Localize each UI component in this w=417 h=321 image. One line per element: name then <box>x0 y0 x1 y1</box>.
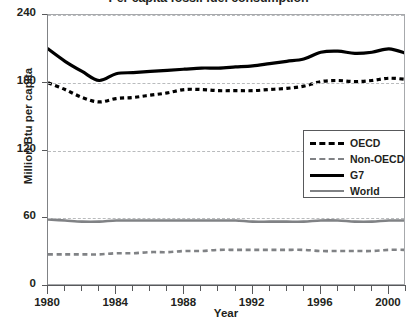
x-tick-1993 <box>269 285 270 291</box>
y-tick-mark-120 <box>42 150 47 151</box>
series-line-world <box>48 219 404 221</box>
y-tick-mark-60 <box>42 217 47 218</box>
y-tick-mark-240 <box>42 14 47 15</box>
x-axis-line <box>47 285 405 286</box>
x-tick-1997 <box>337 285 338 291</box>
series-line-g7 <box>48 49 404 81</box>
x-tick-1991 <box>235 285 236 291</box>
x-tick-1994 <box>286 285 287 291</box>
legend-swatch-world <box>310 190 344 192</box>
y-tick-label-0: 0 <box>0 277 36 289</box>
x-tick-1986 <box>149 285 150 291</box>
x-tick-label-1996: 1996 <box>298 296 342 308</box>
x-tick-1992 <box>252 285 253 294</box>
legend-item-oecd: OECD <box>304 135 404 151</box>
gridline-y-240 <box>48 15 404 16</box>
gridline-y-180 <box>48 83 404 84</box>
legend-swatch-g7 <box>310 174 344 177</box>
y-axis-line <box>47 14 48 285</box>
gridline-y-60 <box>48 218 404 219</box>
x-tick-1981 <box>64 285 65 291</box>
x-tick-label-1984: 1984 <box>93 296 137 308</box>
series-line-non-oecd <box>48 250 404 255</box>
legend-item-non-oecd: Non-OECD <box>304 151 404 167</box>
x-tick-1980 <box>47 285 48 294</box>
x-tick-1985 <box>132 285 133 291</box>
legend-label-g7: G7 <box>350 170 364 181</box>
legend-label-oecd: OECD <box>350 138 380 149</box>
x-tick-2001 <box>405 285 406 291</box>
x-tick-1995 <box>303 285 304 291</box>
y-tick-label-180: 180 <box>0 74 36 86</box>
legend-swatch-oecd <box>310 142 344 145</box>
x-tick-label-1980: 1980 <box>25 296 69 308</box>
x-tick-label-1988: 1988 <box>161 296 205 308</box>
x-tick-1988 <box>183 285 184 294</box>
legend-swatch-non-oecd <box>310 158 344 160</box>
x-tick-1983 <box>98 285 99 291</box>
x-tick-1996 <box>320 285 321 294</box>
y-axis-title: Million Btu per capita <box>22 41 34 211</box>
x-tick-1990 <box>217 285 218 291</box>
x-tick-1984 <box>115 285 116 294</box>
legend-item-world: World <box>304 183 404 199</box>
x-tick-1998 <box>354 285 355 291</box>
x-tick-label-1992: 1992 <box>230 296 274 308</box>
chart-legend: OECD Non-OECD G7 World <box>303 130 405 198</box>
x-tick-1982 <box>81 285 82 291</box>
legend-label-world: World <box>350 186 380 197</box>
y-tick-mark-180 <box>42 82 47 83</box>
x-tick-label-2000: 2000 <box>366 296 410 308</box>
y-tick-label-60: 60 <box>0 209 36 221</box>
x-tick-1999 <box>371 285 372 291</box>
x-axis-title: Year <box>47 307 405 319</box>
chart-figure: Per capita fossil fuel consumption Milli… <box>0 0 417 321</box>
legend-label-non-oecd: Non-OECD <box>350 154 404 165</box>
y-tick-label-240: 240 <box>0 6 36 18</box>
x-tick-1987 <box>166 285 167 291</box>
x-tick-2000 <box>388 285 389 294</box>
y-tick-label-120: 120 <box>0 142 36 154</box>
chart-title: Per capita fossil fuel consumption <box>0 0 417 5</box>
x-tick-1989 <box>200 285 201 291</box>
legend-item-g7: G7 <box>304 167 404 183</box>
